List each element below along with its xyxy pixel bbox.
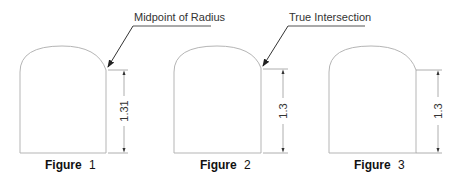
diagram-canvas: 1.31 Midpoint of Radius Figure 1 1.3 Tru…: [0, 0, 464, 184]
figure-1-dimension-value: 1.31: [118, 100, 130, 121]
figure-1-caption: Figure 1: [45, 158, 96, 172]
figure-3-dimension-value: 1.3: [432, 103, 444, 118]
figure-2-caption-word: Figure: [200, 158, 237, 172]
figure-3: 1.3 Figure 3: [329, 46, 444, 172]
figure-1-dim-arrow-top-icon: [123, 71, 126, 76]
figure-2-dimension-value: 1.3: [277, 103, 289, 118]
figure-1-leader-arrow-icon: [108, 26, 133, 67]
figure-3-caption-number: 3: [398, 158, 405, 172]
figure-2: 1.3 True Intersection Figure 2: [174, 11, 371, 172]
figure-2-dim-arrow-bottom-icon: [282, 148, 285, 153]
figure-3-dim-arrow-bottom-icon: [437, 148, 440, 153]
figure-2-callout-label: True Intersection: [289, 11, 371, 23]
figure-3-caption: Figure 3: [354, 158, 405, 172]
figure-2-caption-number: 2: [244, 158, 251, 172]
figure-1-callout-label: Midpoint of Radius: [134, 11, 226, 23]
figure-2-leader-arrow-icon: [263, 26, 288, 66]
figure-2-dim-arrow-top-icon: [282, 70, 285, 75]
figure-3-caption-word: Figure: [354, 158, 391, 172]
figure-2-shape: [174, 46, 261, 153]
figure-1: 1.31 Midpoint of Radius Figure 1: [20, 11, 226, 172]
figure-1-dim-arrow-bottom-icon: [123, 148, 126, 153]
figure-1-caption-word: Figure: [45, 158, 82, 172]
figure-3-shape: [329, 46, 416, 153]
figure-1-shape: [20, 46, 106, 153]
figure-2-caption: Figure 2: [200, 158, 251, 172]
figure-3-dim-arrow-top-icon: [437, 71, 440, 76]
figure-1-caption-number: 1: [89, 158, 96, 172]
